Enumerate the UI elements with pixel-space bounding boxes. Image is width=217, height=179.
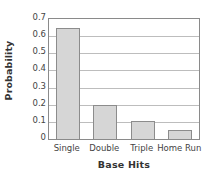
y-tick-label: 0.3 bbox=[22, 82, 46, 91]
plot-area bbox=[48, 18, 200, 140]
y-tick-label: 0.2 bbox=[22, 99, 46, 108]
y-tick-label: 0.4 bbox=[22, 64, 46, 73]
bar bbox=[93, 105, 117, 139]
y-tick-label: 0.6 bbox=[22, 30, 46, 39]
y-axis-title: Probability bbox=[0, 0, 18, 140]
y-tick-label: 0 bbox=[22, 133, 46, 142]
bar-chart: Probability 00.10.20.30.40.50.60.7 Singl… bbox=[0, 0, 217, 179]
bar bbox=[168, 130, 192, 139]
y-axis-title-label: Probability bbox=[4, 40, 15, 100]
bar bbox=[131, 121, 155, 139]
x-axis-title: Base Hits bbox=[48, 159, 200, 170]
x-axis-tick-labels: SingleDoubleTripleHome Run bbox=[48, 143, 200, 157]
y-tick-label: 0.1 bbox=[22, 116, 46, 125]
y-tick-label: 0.5 bbox=[22, 47, 46, 56]
x-tick-label: Home Run bbox=[155, 143, 205, 154]
bar bbox=[56, 28, 80, 139]
y-tick-label: 0.7 bbox=[22, 13, 46, 22]
